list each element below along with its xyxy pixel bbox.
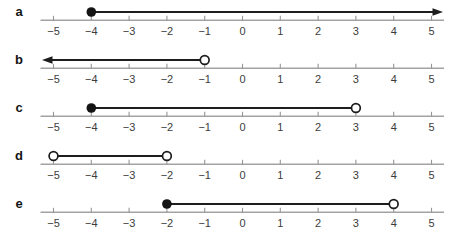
tick-label: 0 xyxy=(239,169,245,181)
tick-label: −1 xyxy=(198,217,211,229)
ray-arrowhead-left xyxy=(42,56,53,64)
tick-label: −5 xyxy=(47,121,60,133)
tick-label: −2 xyxy=(161,217,174,229)
tick-label: −5 xyxy=(47,25,60,37)
tick-label: 5 xyxy=(428,121,434,133)
tick-label: 5 xyxy=(428,169,434,181)
tick-label: −2 xyxy=(161,169,174,181)
tick-label: −1 xyxy=(198,121,211,133)
tick-label: 5 xyxy=(428,217,434,229)
tick-label: 2 xyxy=(315,25,321,37)
tick-label: 4 xyxy=(391,169,397,181)
tick-label: 4 xyxy=(391,73,397,85)
tick-label: 3 xyxy=(353,73,359,85)
tick-label: −4 xyxy=(85,121,98,133)
tick-label: 3 xyxy=(353,25,359,37)
endpoint-open-circle xyxy=(49,152,58,161)
tick-label: −2 xyxy=(161,25,174,37)
endpoint-open-circle xyxy=(163,152,172,161)
number-line-b: −5−4−3−2−1012345 xyxy=(0,48,454,98)
tick-label: 1 xyxy=(277,73,283,85)
endpoint-open-circle xyxy=(352,104,361,113)
number-line-a: −5−4−3−2−1012345 xyxy=(0,0,454,50)
tick-label: 2 xyxy=(315,217,321,229)
tick-label: −4 xyxy=(85,25,98,37)
tick-label: 1 xyxy=(277,169,283,181)
tick-label: 0 xyxy=(239,73,245,85)
endpoint-closed-dot xyxy=(162,199,172,209)
number-lines-figure: a −5−4−3−2−1012345 b −5−4−3−2−1012345 c … xyxy=(0,0,454,247)
tick-label: 1 xyxy=(277,121,283,133)
tick-label: 5 xyxy=(428,73,434,85)
tick-label: 0 xyxy=(239,25,245,37)
number-line-e: −5−4−3−2−1012345 xyxy=(0,192,454,242)
tick-label: −5 xyxy=(47,169,60,181)
tick-label: 0 xyxy=(239,121,245,133)
tick-label: 2 xyxy=(315,121,321,133)
tick-label: 1 xyxy=(277,217,283,229)
tick-label: −5 xyxy=(47,73,60,85)
tick-label: −3 xyxy=(123,217,136,229)
tick-label: 2 xyxy=(315,169,321,181)
tick-label: 5 xyxy=(428,25,434,37)
tick-label: −3 xyxy=(123,121,136,133)
endpoint-closed-dot xyxy=(87,7,97,17)
tick-label: 2 xyxy=(315,73,321,85)
number-line-c: −5−4−3−2−1012345 xyxy=(0,96,454,146)
tick-label: −4 xyxy=(85,73,98,85)
tick-label: 0 xyxy=(239,217,245,229)
tick-label: −4 xyxy=(85,217,98,229)
tick-label: −5 xyxy=(47,217,60,229)
tick-label: −4 xyxy=(85,169,98,181)
tick-label: −2 xyxy=(161,121,174,133)
endpoint-closed-dot xyxy=(87,103,97,113)
tick-label: 3 xyxy=(353,169,359,181)
tick-label: 3 xyxy=(353,217,359,229)
tick-label: 4 xyxy=(391,121,397,133)
tick-label: 3 xyxy=(353,121,359,133)
tick-label: 4 xyxy=(391,217,397,229)
tick-label: −1 xyxy=(198,169,211,181)
endpoint-open-circle xyxy=(200,56,209,65)
tick-label: −1 xyxy=(198,25,211,37)
tick-label: 1 xyxy=(277,25,283,37)
endpoint-open-circle xyxy=(389,200,398,209)
tick-label: −3 xyxy=(123,169,136,181)
number-line-d: −5−4−3−2−1012345 xyxy=(0,144,454,194)
tick-label: −1 xyxy=(198,73,211,85)
ray-arrowhead-right xyxy=(433,8,444,16)
tick-label: −2 xyxy=(161,73,174,85)
tick-label: 4 xyxy=(391,25,397,37)
tick-label: −3 xyxy=(123,25,136,37)
tick-label: −3 xyxy=(123,73,136,85)
